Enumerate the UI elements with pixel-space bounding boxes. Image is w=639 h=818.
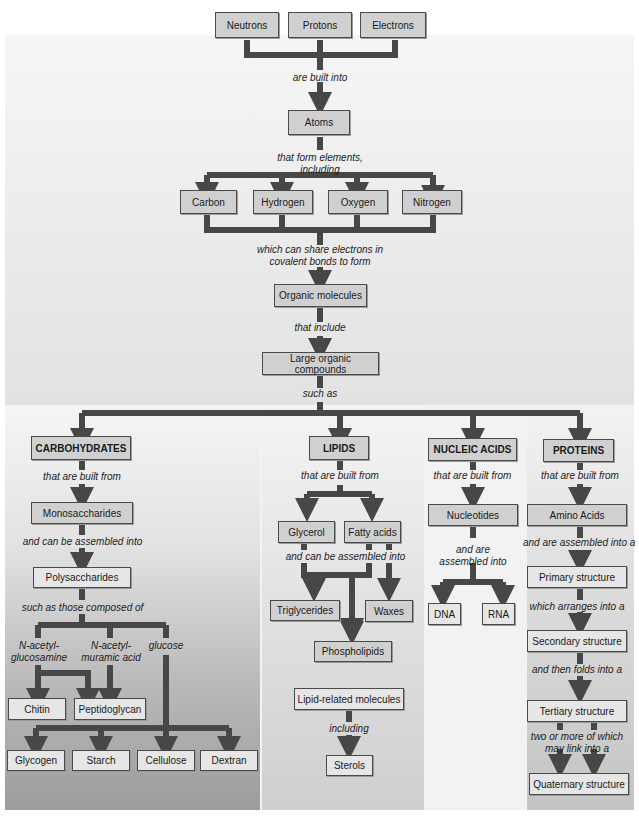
label-line: muramic acid [81,652,140,663]
nitrogen-box: Nitrogen [402,190,462,214]
quaternary-structure-box: Quaternary structure [529,773,629,795]
lipid-related-molecules-box: Lipid-related molecules [294,688,404,710]
atoms-box: Atoms [288,110,350,135]
protons-box: Protons [288,12,352,38]
nucleic-link-assembled: and areassembled into [432,544,514,567]
lipids-box: LIPIDS [309,436,369,460]
chitin-box: Chitin [8,698,66,720]
protein-link-assembled: and are assembled into a [523,537,633,549]
neutrons-box: Neutrons [215,12,279,38]
protein-link-folds: and then folds into a [527,664,627,676]
cellulose-box: Cellulose [137,750,195,771]
link-that-form-elements: that form elements,including [250,152,390,175]
lipid-link-including: including [320,723,378,735]
organic-molecules-box: Organic molecules [274,284,367,307]
electrons-box: Electrons [360,12,426,38]
nucleotides-box: Nucleotides [428,504,518,526]
n-acetylglucosamine-label: N-acetyl-glucosamine [8,640,70,663]
phospholipids-box: Phospholipids [314,641,392,662]
link-line: which can share electrons in [257,244,383,255]
link-line: including [300,164,339,175]
link-line: covalent bonds to form [269,256,370,267]
lipid-link-built-from: that are built from [285,470,395,482]
link-that-include: that include [270,322,370,334]
link-share-electrons: which can share electrons incovalent bon… [240,244,400,267]
n-acetylmuramic-acid-label: N-acetyl-muramic acid [80,640,142,663]
carbohydrates-box: CARBOHYDRATES [31,436,131,460]
carb-link-composed-of: such as those composed of [15,602,150,614]
protein-link-quaternary: two or more of whichmay link into a [527,731,627,754]
triglycerides-box: Triglycerides [270,600,340,621]
dextran-box: Dextran [200,750,258,771]
tertiary-structure-box: Tertiary structure [527,700,627,722]
protein-link-built-from: that are built from [535,470,625,482]
glucose-label: glucose [145,640,187,652]
carb-link-assembled: and can be assembled into [15,536,150,548]
protein-link-arranges: which arranges into a [527,601,627,613]
link-line: that form elements, [277,152,363,163]
link-such-as: such as [290,388,350,400]
nucleic-acids-box: NUCLEIC ACIDS [428,438,517,461]
link-line: may link into a [545,743,609,754]
carb-link-built-from: that are built from [27,471,137,483]
rna-box: RNA [482,603,515,625]
lipid-link-assembled: and can be assembled into [283,551,408,563]
primary-structure-box: Primary structure [527,566,627,588]
secondary-structure-box: Secondary structure [527,630,627,652]
proteins-box: PROTEINS [543,439,614,462]
carbon-box: Carbon [180,190,237,214]
monosaccharides-box: Monosaccharides [31,502,133,524]
glycerol-box: Glycerol [278,521,335,543]
amino-acids-box: Amino Acids [527,504,627,526]
fatty-acids-box: Fatty acids [344,521,401,543]
polysaccharides-box: Polysaccharides [33,567,131,588]
label-line: N-acetyl- [91,640,131,651]
peptidoglycan-box: Peptidoglycan [74,698,146,720]
dna-box: DNA [428,603,461,625]
link-line: and are [456,544,490,555]
oxygen-box: Oxygen [328,190,388,214]
label-line: glucosamine [11,652,67,663]
hydrogen-box: Hydrogen [253,190,313,214]
large-organic-compounds-box: Large organic compounds [262,352,379,375]
label-line: N-acetyl- [19,640,59,651]
sterols-box: Sterols [326,755,373,776]
link-line: assembled into [439,556,506,567]
waxes-box: Waxes [365,600,413,622]
link-are-built-into: are built into [270,72,370,84]
starch-box: Starch [72,750,130,771]
nucleic-link-built-from: that are built from [430,470,515,482]
glycogen-box: Glycogen [7,750,65,771]
link-line: two or more of which [531,731,623,742]
top-background [5,35,634,405]
